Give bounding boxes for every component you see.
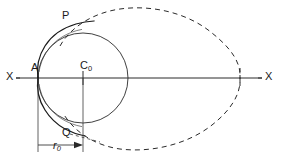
cardioid-inner-thin-arc: [39, 29, 82, 72]
c0-subscript: 0: [88, 64, 92, 73]
cardioid-inner-thin-arc-lower: [39, 84, 82, 127]
axis-label-x-left: X: [6, 71, 13, 82]
point-label-q: Q: [62, 127, 71, 138]
dimension-arrowhead-right: [74, 142, 83, 148]
c0-base: C: [80, 59, 88, 71]
cardioid-diagram: X X A C0 P Q r0: [0, 0, 281, 164]
q-dashed-tangent-segment: [70, 134, 100, 142]
dimension-label-r0: r0: [53, 140, 61, 151]
point-label-p: P: [62, 10, 69, 21]
point-label-a: A: [31, 62, 38, 73]
r0-subscript: 0: [57, 144, 61, 153]
point-label-c0: C0: [80, 60, 92, 71]
outer-cardioid-dashed-curve: [60, 8, 240, 150]
axis-label-x-right: X: [265, 71, 272, 82]
diagram-canvas: [0, 0, 281, 164]
